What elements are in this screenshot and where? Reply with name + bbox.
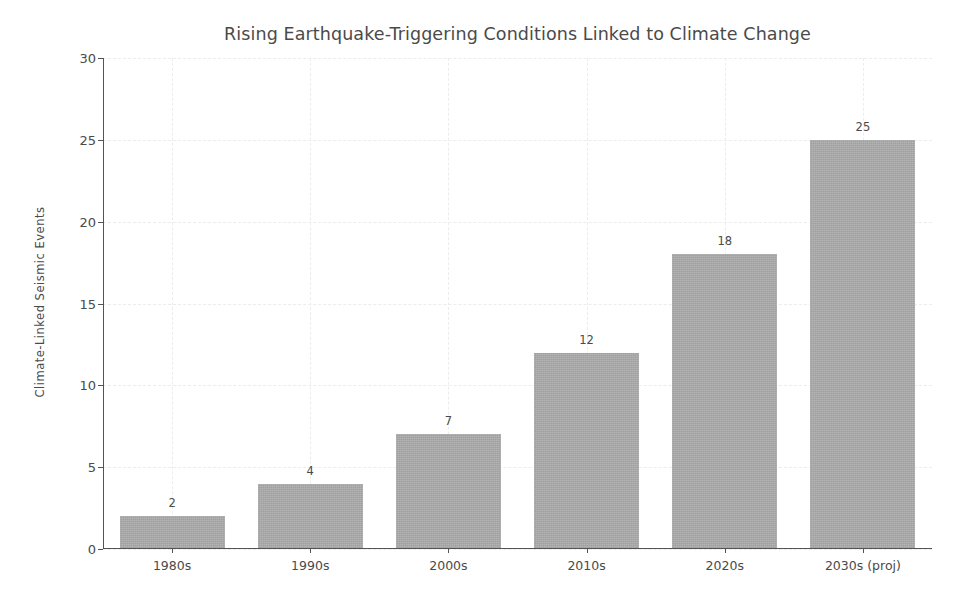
gridline-horizontal [103,58,932,59]
y-tick-label: 30 [79,51,96,66]
x-tick-label: 2000s [429,558,467,573]
y-tick-label: 10 [79,378,96,393]
bar[interactable] [396,434,501,549]
bar-value-label: 2 [168,496,175,510]
bar[interactable] [534,353,639,549]
gridline-horizontal [103,222,932,223]
x-tick-label: 2030s (proj) [825,558,901,573]
y-tick-label: 25 [79,132,96,147]
x-tick-label: 2010s [567,558,605,573]
y-axis-line [103,58,104,549]
chart-title: Rising Earthquake-Triggering Conditions … [103,24,932,44]
gridline-vertical [172,58,173,549]
y-tick-label: 0 [88,542,96,557]
gridline-horizontal [103,304,932,305]
y-axis-title: Climate-Linked Seismic Events [33,92,47,512]
bar-value-label: 4 [307,464,314,478]
y-tick-label: 15 [79,296,96,311]
bar-value-label: 18 [717,234,732,248]
x-tick-label: 2020s [706,558,744,573]
bar-value-label: 25 [856,120,871,134]
x-tick-label: 1990s [291,558,329,573]
y-tick-label: 20 [79,214,96,229]
bar[interactable] [672,254,777,549]
bar[interactable] [120,516,225,549]
bar-value-label: 7 [445,414,452,428]
gridline-horizontal [103,467,932,468]
x-axis-line [103,548,932,550]
y-tick-label: 5 [88,460,96,475]
x-tick-label: 1980s [153,558,191,573]
bar-value-label: 12 [579,333,594,347]
gridline-horizontal [103,385,932,386]
plot-area: 051015202530 1980s1990s2000s2010s2020s20… [103,58,932,549]
bar[interactable] [810,140,915,549]
chart-figure: Rising Earthquake-Triggering Conditions … [0,0,976,605]
gridline-horizontal [103,140,932,141]
bar[interactable] [258,484,363,549]
